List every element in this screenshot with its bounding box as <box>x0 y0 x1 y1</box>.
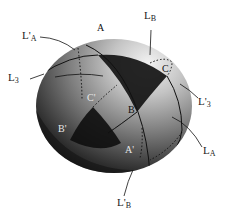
line-lb-prime-label: L'B <box>117 197 131 210</box>
vertex-a-prime-label: A' <box>125 145 134 155</box>
leader-la-prime <box>40 37 75 50</box>
vertex-a-label: A <box>97 23 104 33</box>
line-la-prime-label: L'A <box>22 30 37 43</box>
line-l3-label: L3 <box>8 72 19 85</box>
line-l3-prime-label: L'3 <box>198 96 211 109</box>
vertex-b-prime-label: B' <box>58 124 66 134</box>
line-la-label: LA <box>203 145 216 158</box>
leader-l3 <box>30 74 44 79</box>
vertex-c-prime-label: C' <box>87 93 95 103</box>
line-lb-label: LB <box>144 10 156 23</box>
leader-lb-prime <box>124 170 133 196</box>
sphere-diagram: A C B C' B' A' LB L'A L3 L'3 LA L'B <box>0 0 229 216</box>
vertex-b-label: B <box>128 105 135 115</box>
vertex-c-label: C <box>162 64 169 74</box>
